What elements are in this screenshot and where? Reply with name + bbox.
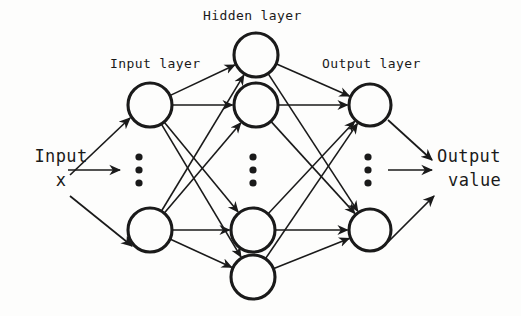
input-text-label: Input	[22, 146, 100, 167]
layer-ellipsis-dots	[135, 153, 371, 186]
ellipsis-dot-input-1	[135, 153, 142, 160]
edges-hidden-to-output	[266, 64, 358, 269]
edge-i2-h1	[162, 75, 244, 211]
out-arrow-upper	[388, 120, 432, 160]
neuron-o1	[349, 84, 391, 126]
ellipsis-dot-output-1	[364, 153, 371, 160]
ellipsis-dot-input-3	[135, 179, 142, 186]
hidden-layer-label: Hidden layer	[203, 8, 302, 23]
neuron-nodes	[128, 33, 391, 299]
ellipsis-dot-input-2	[135, 166, 142, 173]
neuron-o2	[349, 209, 391, 251]
edge-h4-o1	[266, 124, 358, 259]
ellipsis-dot-hidden-1	[249, 153, 256, 160]
neuron-i1	[128, 83, 172, 127]
edge-h4-o2	[274, 238, 349, 268]
neuron-h3	[231, 208, 275, 252]
neuron-h2	[234, 83, 278, 127]
ellipsis-dot-output-2	[364, 166, 371, 173]
input-layer-label: Input layer	[110, 56, 201, 71]
output-value-label: value	[448, 170, 501, 191]
ellipsis-dot-hidden-2	[249, 166, 256, 173]
neuron-h1	[234, 33, 278, 77]
neuron-h4	[231, 255, 275, 299]
ellipsis-dot-hidden-3	[249, 179, 256, 186]
output-layer-label: Output layer	[322, 56, 421, 71]
ellipsis-dot-output-3	[364, 179, 371, 186]
in-arrow-lower	[70, 196, 132, 246]
out-arrow-lower	[388, 196, 434, 242]
input-variable-label: x	[22, 170, 100, 191]
edge-i1-h3	[164, 122, 238, 211]
neural-network-diagram: Input layer Hidden layer Output layer In…	[0, 0, 521, 316]
neuron-i2	[128, 208, 172, 252]
edge-i2-h4	[170, 239, 231, 267]
output-text-label: Output	[437, 146, 501, 167]
output-arrows	[388, 120, 434, 242]
